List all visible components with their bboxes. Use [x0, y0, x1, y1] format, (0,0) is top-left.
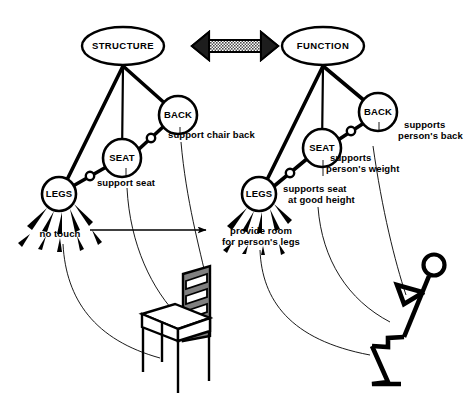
anno-function-seat-line2: at good height — [288, 194, 356, 205]
anno-structure-legs: no touch — [40, 228, 81, 239]
anno-function-seat-line1: supports seat — [283, 183, 347, 194]
node-function-back-label: BACK — [364, 106, 392, 117]
anno-structure-back: support chair back — [168, 129, 255, 140]
node-structure-root-label: STRUCTURE — [92, 40, 154, 51]
diagram-root: LEGS SEAT BACK STRUCTURE support seat su… — [0, 0, 475, 414]
node-structure-legs-label: LEGS — [46, 188, 73, 199]
anno-function-weight-line1: supports — [330, 152, 371, 163]
structure-function-diagram: LEGS SEAT BACK STRUCTURE support seat su… — [0, 0, 475, 414]
anno-function-legs-line1: provide room — [230, 225, 292, 236]
anno-function-weight-line2: person's weight — [326, 163, 400, 174]
joint-marker-seat-back-fn — [347, 127, 355, 135]
anno-function-legs-line2: for person's legs — [222, 236, 300, 247]
node-structure-seat-label: SEAT — [109, 152, 134, 163]
anno-structure-seat: support seat — [97, 177, 156, 188]
joint-marker-legs-seat-fn — [286, 169, 294, 177]
person-head — [424, 255, 445, 276]
node-function-root-label: FUNCTION — [297, 40, 349, 51]
node-structure-back-label: BACK — [164, 109, 192, 120]
node-function-legs-label: LEGS — [246, 188, 273, 199]
anno-function-back-line2: person's back — [398, 130, 463, 141]
joint-marker-legs-seat — [86, 172, 94, 180]
joint-marker-seat-back — [147, 134, 155, 142]
anno-function-back-line1: supports — [404, 119, 445, 130]
